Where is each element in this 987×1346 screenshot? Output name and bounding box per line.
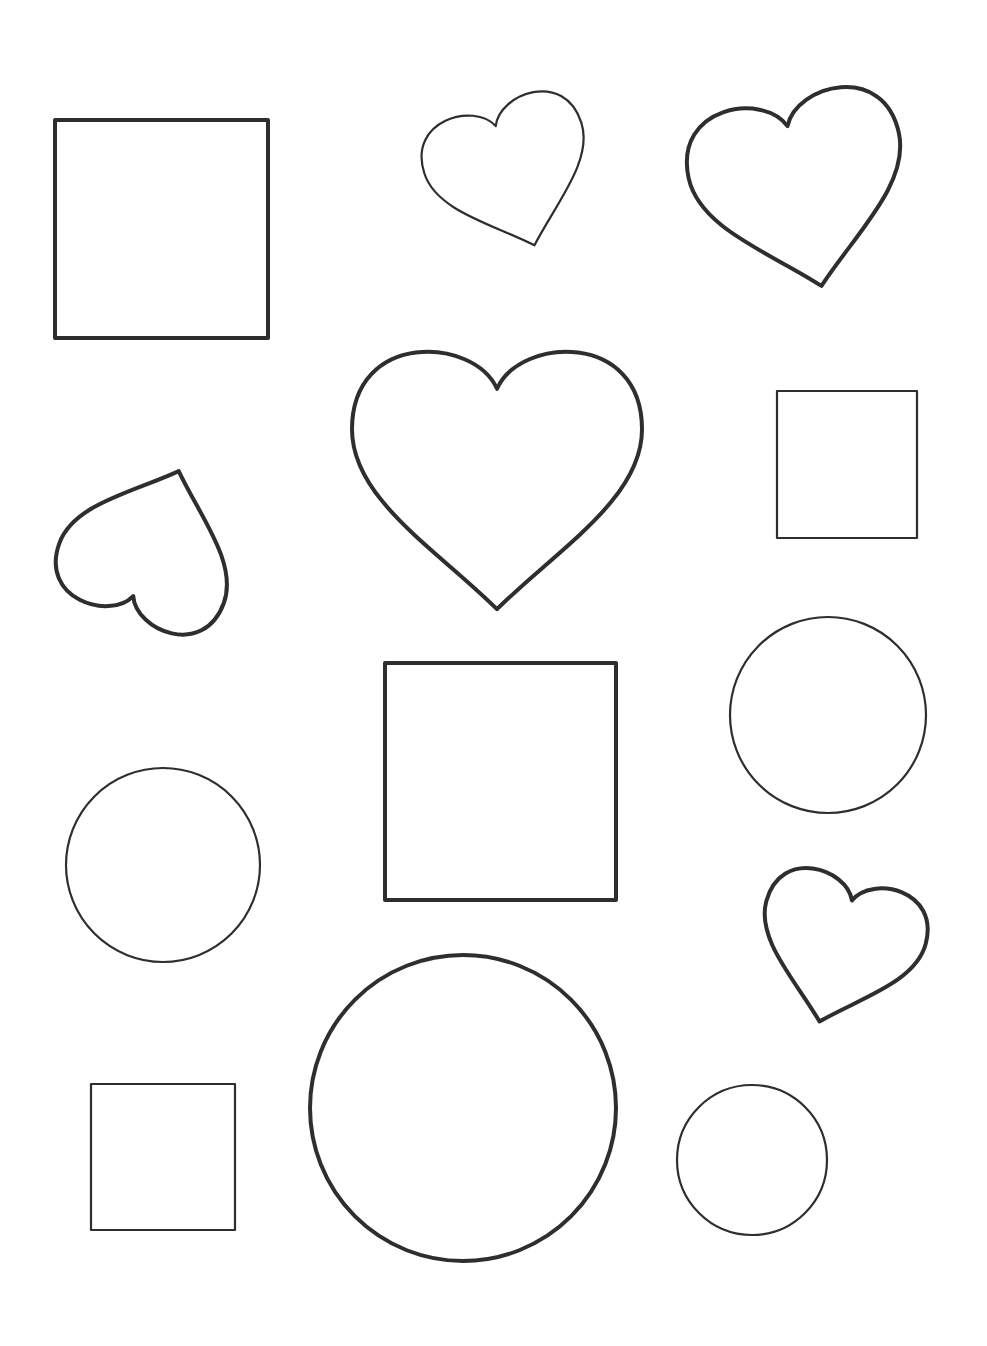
coloring-canvas (0, 0, 987, 1346)
heart-shape (411, 81, 613, 271)
heart-shape (740, 859, 937, 1043)
circle-shape (730, 617, 926, 813)
square-shape (777, 391, 917, 538)
heart-shape (43, 441, 261, 647)
circle-shape (310, 955, 616, 1261)
circle-shape (677, 1085, 827, 1235)
heart-shape (352, 352, 642, 609)
circle-shape (66, 768, 260, 962)
square-shape (385, 663, 616, 900)
heart-shape (677, 77, 927, 308)
square-shape (55, 120, 268, 338)
square-shape (91, 1084, 235, 1230)
